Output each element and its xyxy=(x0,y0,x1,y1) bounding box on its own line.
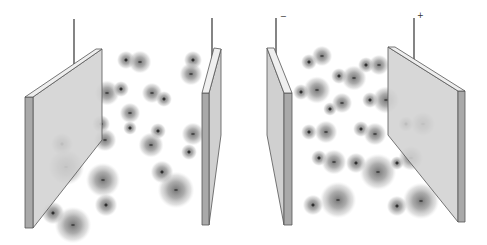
plate-edge xyxy=(284,93,292,225)
plate-edge xyxy=(458,91,465,222)
plate-positive xyxy=(388,18,465,222)
plate-left-inner xyxy=(202,18,221,225)
plate-face xyxy=(388,47,458,222)
plate-edge xyxy=(25,97,33,228)
electrolyte-diagram: − + xyxy=(0,0,487,245)
plate-edge xyxy=(202,93,209,225)
plate-negative xyxy=(267,18,292,225)
plate-face xyxy=(33,49,102,228)
negative-terminal-label: − xyxy=(280,13,287,21)
positive-terminal-label: + xyxy=(417,12,424,20)
plate-left-outer xyxy=(25,19,102,228)
plates-front-layer xyxy=(0,0,487,245)
